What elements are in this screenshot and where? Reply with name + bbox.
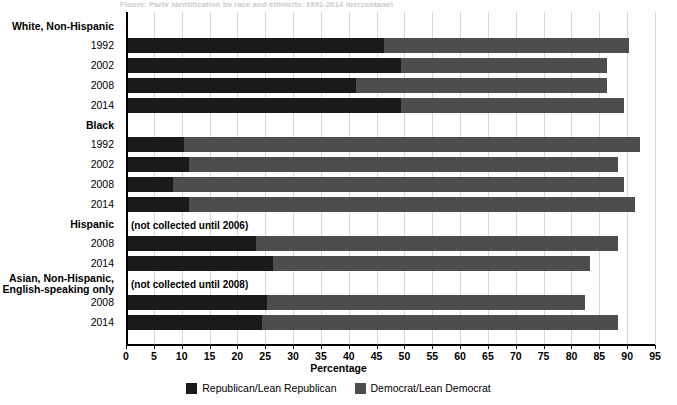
x-axis-tick-label: 85 [584,350,614,362]
bar-segment-republican [128,236,256,251]
x-axis-tick [126,345,127,349]
bar-segment-republican [128,78,356,93]
year-label: 2014 [0,198,120,210]
bar-segment-democrat [173,177,624,192]
bar-segment-republican [128,256,273,271]
x-axis-tick-label: 30 [278,350,308,362]
x-axis-line [126,344,655,346]
bar-segment-democrat [256,236,618,251]
bar-segment-democrat [384,38,629,53]
legend-swatch-icon [186,383,197,394]
x-axis-tick [377,345,378,349]
x-axis-tick-label: 20 [222,350,252,362]
x-axis-tick-label: 50 [389,350,419,362]
x-axis-tick-label: 70 [501,350,531,362]
table-row [128,98,624,113]
x-axis-tick [293,345,294,349]
x-axis-tick-label: 25 [250,350,280,362]
group-heading-line: Asian, Non-Hispanic, [0,273,114,284]
group-heading-0: White, Non-Hispanic [0,21,120,32]
x-axis-tick [516,345,517,349]
legend-swatch-icon [355,383,366,394]
year-label: 2008 [0,296,120,308]
x-axis-tick-label: 0 [111,350,141,362]
x-axis-tick-label: 35 [306,350,336,362]
x-axis-tick [265,345,266,349]
x-axis-tick [154,345,155,349]
table-row [128,38,629,53]
x-axis-tick [432,345,433,349]
x-axis-tick [182,345,183,349]
x-axis-tick [488,345,489,349]
year-label: 2008 [0,178,120,190]
x-axis-tick [599,345,600,349]
group-heading-line: Hispanic [0,219,114,230]
x-axis-tick [210,345,211,349]
bar-segment-republican [128,98,401,113]
year-label: 1992 [0,138,120,150]
group-heading-2: Hispanic [0,219,120,230]
x-axis-tick-label: 45 [362,350,392,362]
bar-segment-democrat [273,256,590,271]
table-row [128,295,585,310]
x-axis-tick-label: 15 [195,350,225,362]
group-heading-1: Black [0,120,120,131]
bar-segment-republican [128,197,189,212]
bar-segment-republican [128,315,262,330]
bar-segment-democrat [262,315,618,330]
top-caption: Figure: Party identification by race and… [120,0,393,7]
bar-segment-republican [128,177,173,192]
bar-segment-democrat [184,137,641,152]
group-heading-line: Black [0,120,114,131]
x-axis-tick [655,345,656,349]
x-axis-tick [544,345,545,349]
bar-segment-republican [128,295,267,310]
not-collected-note: (not collected until 2006) [131,220,248,231]
x-axis-tick-label: 10 [167,350,197,362]
x-axis-tick-label: 55 [417,350,447,362]
bar-segment-republican [128,137,184,152]
legend-label: Republican/Lean Republican [202,382,336,394]
bar-segment-democrat [401,58,607,73]
x-axis-tick-label: 60 [445,350,475,362]
legend-item-1: Democrat/Lean Democrat [355,382,491,394]
table-row [128,256,590,271]
bar-segment-republican [128,58,401,73]
x-axis-tick-label: 65 [473,350,503,362]
table-row [128,78,607,93]
x-axis-tick-label: 95 [640,350,670,362]
x-axis-tick [627,345,628,349]
not-collected-note: (not collected until 2008) [131,279,248,290]
year-label: 2014 [0,257,120,269]
bar-segment-democrat [189,197,634,212]
x-axis-tick [571,345,572,349]
table-row [128,137,640,152]
x-axis-tick-label: 75 [529,350,559,362]
table-row [128,58,607,73]
bar-segment-democrat [189,157,618,172]
x-axis-tick [321,345,322,349]
x-axis-title: Percentage [0,362,677,374]
group-heading-3: Asian, Non-Hispanic,English-speaking onl… [0,273,120,295]
x-axis-tick [237,345,238,349]
table-row [128,236,618,251]
table-row [128,177,624,192]
x-axis-tick-label: 80 [556,350,586,362]
group-heading-line: English-speaking only [0,284,114,295]
legend-label: Democrat/Lean Democrat [371,382,491,394]
table-row [128,197,635,212]
x-axis-tick [404,345,405,349]
gridline [655,12,656,345]
legend-item-0: Republican/Lean Republican [186,382,336,394]
year-label: 2014 [0,99,120,111]
x-axis-tick [349,345,350,349]
year-label: 2008 [0,237,120,249]
year-label: 2002 [0,158,120,170]
x-axis-tick-label: 90 [612,350,642,362]
x-axis-tick-label: 5 [139,350,169,362]
bar-segment-democrat [401,98,624,113]
bar-segment-republican [128,38,384,53]
bar-segment-republican [128,157,189,172]
year-label: 1992 [0,39,120,51]
table-row [128,315,618,330]
